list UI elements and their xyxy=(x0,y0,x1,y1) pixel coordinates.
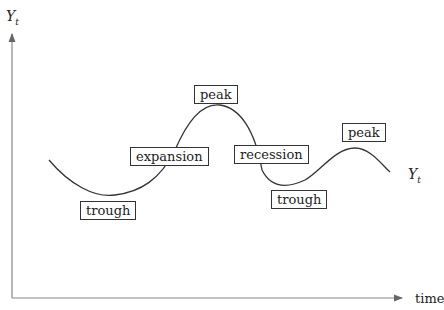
label-trough-1: trough xyxy=(80,201,136,220)
business-cycle-curve xyxy=(49,105,390,196)
label-recession: recession xyxy=(234,145,309,164)
x-axis-label: time xyxy=(415,291,444,306)
curve-label: Yt xyxy=(408,166,421,185)
label-trough-2: trough xyxy=(271,190,327,209)
label-expansion: expansion xyxy=(130,147,209,166)
y-axis-label: Yt xyxy=(6,8,19,27)
label-peak-2: peak xyxy=(342,123,386,142)
label-peak-1: peak xyxy=(194,85,238,104)
